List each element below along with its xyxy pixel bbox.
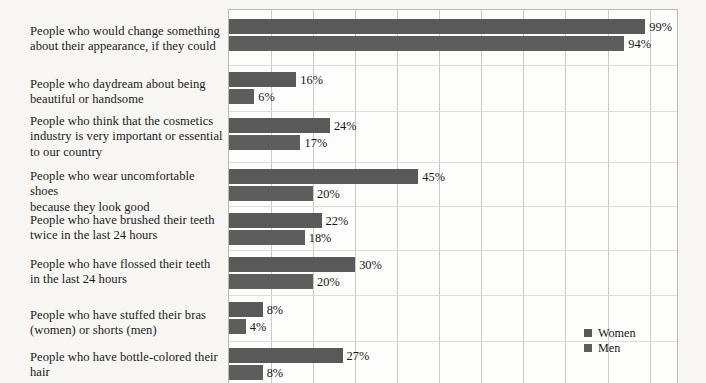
category-label-line: beautiful or handsome — [30, 92, 226, 107]
row-separator — [229, 111, 677, 112]
bar-women — [229, 348, 343, 363]
bar-value-women: 99% — [649, 20, 672, 35]
bar-value-women: 24% — [334, 119, 357, 134]
category-label: People who wear uncomfortable shoesbecau… — [30, 169, 226, 215]
legend-label: Men — [598, 341, 620, 356]
category-label: People who have brushed their teethtwice… — [30, 213, 226, 244]
category-label-line: People who daydream about being — [30, 77, 226, 92]
category-label-line: People who have flossed their teeth — [30, 257, 226, 272]
category-label: People who would change somethingabout t… — [30, 24, 226, 55]
bar-value-women: 27% — [347, 349, 370, 364]
legend-item: Men — [584, 341, 636, 356]
category-label-column: People who would change somethingabout t… — [0, 0, 228, 383]
legend-label: Women — [598, 326, 636, 341]
bar-value-men: 8% — [267, 366, 284, 381]
bar-men — [229, 230, 305, 245]
bar-value-men: 6% — [258, 90, 275, 105]
bar-men — [229, 274, 313, 289]
category-label-line: to our country — [30, 145, 226, 160]
category-label-line: twice in the last 24 hours — [30, 228, 226, 243]
category-label-line: People who wear uncomfortable shoes — [30, 169, 226, 200]
bar-men — [229, 365, 263, 380]
legend-swatch-icon — [584, 344, 592, 352]
bar-value-men: 17% — [304, 136, 327, 151]
category-label: People who have bottle-colored theirhair — [30, 350, 226, 381]
bar-women — [229, 169, 418, 184]
bar-men — [229, 319, 246, 334]
bar-value-women: 16% — [300, 73, 323, 88]
bar-value-men: 20% — [317, 275, 340, 290]
bar-men — [229, 36, 624, 51]
legend-item: Women — [584, 326, 636, 341]
legend-swatch-icon — [584, 329, 592, 337]
bar-value-men: 20% — [317, 187, 340, 202]
category-label: People who have stuffed their bras(women… — [30, 308, 226, 339]
category-label-line: People who think that the cosmetics — [30, 114, 226, 129]
row-separator — [229, 65, 677, 66]
chart-page: People who would change somethingabout t… — [0, 0, 706, 383]
bar-value-men: 94% — [628, 37, 651, 52]
bar-men — [229, 89, 254, 104]
chart-legend: WomenMen — [584, 326, 636, 355]
category-label: People who think that the cosmeticsindus… — [30, 114, 226, 160]
bar-women — [229, 302, 263, 317]
category-label-line: People who have stuffed their bras — [30, 308, 226, 323]
bar-women — [229, 19, 645, 34]
category-label-line: People who would change something — [30, 24, 226, 39]
row-separator — [229, 250, 677, 251]
category-label: People who have flossed their teethin th… — [30, 257, 226, 288]
bar-men — [229, 135, 300, 150]
bar-value-women: 30% — [359, 258, 382, 273]
bar-women — [229, 257, 355, 272]
row-separator — [229, 295, 677, 296]
category-label: People who daydream about beingbeautiful… — [30, 77, 226, 108]
category-label-line: People who have brushed their teeth — [30, 213, 226, 228]
category-label-line: in the last 24 hours — [30, 272, 226, 287]
bar-women — [229, 213, 322, 228]
category-label-line: industry is very important or essential — [30, 129, 226, 144]
bar-women — [229, 118, 330, 133]
row-separator — [229, 162, 677, 163]
bar-value-men: 18% — [309, 231, 332, 246]
category-label-line: People who have bottle-colored their — [30, 350, 226, 365]
category-label-line: about their appearance, if they could — [30, 39, 226, 54]
bar-value-men: 4% — [250, 320, 267, 335]
category-label-line: (women) or shorts (men) — [30, 323, 226, 338]
bar-value-women: 45% — [422, 170, 445, 185]
bar-value-women: 8% — [267, 303, 284, 318]
bar-value-women: 22% — [326, 214, 349, 229]
bar-men — [229, 186, 313, 201]
category-label-line: hair — [30, 365, 226, 380]
bar-women — [229, 72, 296, 87]
row-separator — [229, 206, 677, 207]
